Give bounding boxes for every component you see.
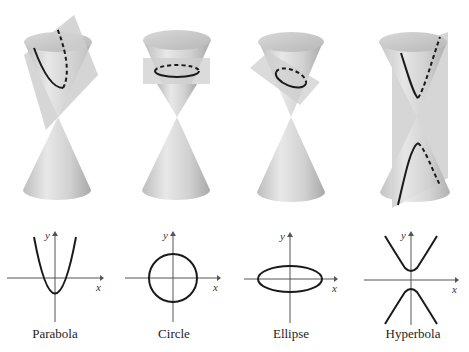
hyperbola-y-axis-label: y (401, 229, 406, 241)
conic-sections-figure (0, 0, 469, 352)
circle-x-axis-label: x (213, 281, 218, 293)
ellipse-graph (244, 232, 338, 323)
upper-rim (143, 30, 211, 50)
circle-cone-illustration (142, 30, 211, 200)
upper-rim (258, 32, 324, 52)
ellipse-x-axis-label: x (332, 282, 337, 294)
circle-y-axis-label: y (163, 229, 168, 241)
hyperbola-graph (364, 231, 459, 325)
hyperbola-x-axis-label: x (452, 283, 457, 295)
circle-label: Circle (124, 326, 224, 342)
circle-graph (125, 231, 221, 322)
ellipse-label: Ellipse (241, 326, 341, 342)
y-axis-arrow-icon (408, 231, 414, 236)
y-axis-arrow-icon (287, 232, 293, 237)
lower-nappe (142, 117, 210, 200)
parabola-graph (7, 231, 104, 322)
hyperbola-cone-illustration (379, 32, 450, 208)
y-axis-arrow-icon (52, 231, 58, 236)
parabola-cone-illustration (23, 15, 98, 200)
upper-nappe-lower-part (157, 84, 197, 117)
lower-nappe (257, 117, 325, 202)
parabola-label: Parabola (5, 326, 105, 342)
lower-nappe (23, 117, 91, 200)
ellipse-y-axis-label: y (280, 230, 285, 242)
parabola-y-axis-label: y (45, 229, 50, 241)
ellipse-cone-illustration (250, 32, 325, 202)
parabola-x-axis-label: x (96, 281, 101, 293)
hyperbola-label: Hyperbola (363, 326, 463, 342)
y-axis-arrow-icon (170, 231, 176, 236)
